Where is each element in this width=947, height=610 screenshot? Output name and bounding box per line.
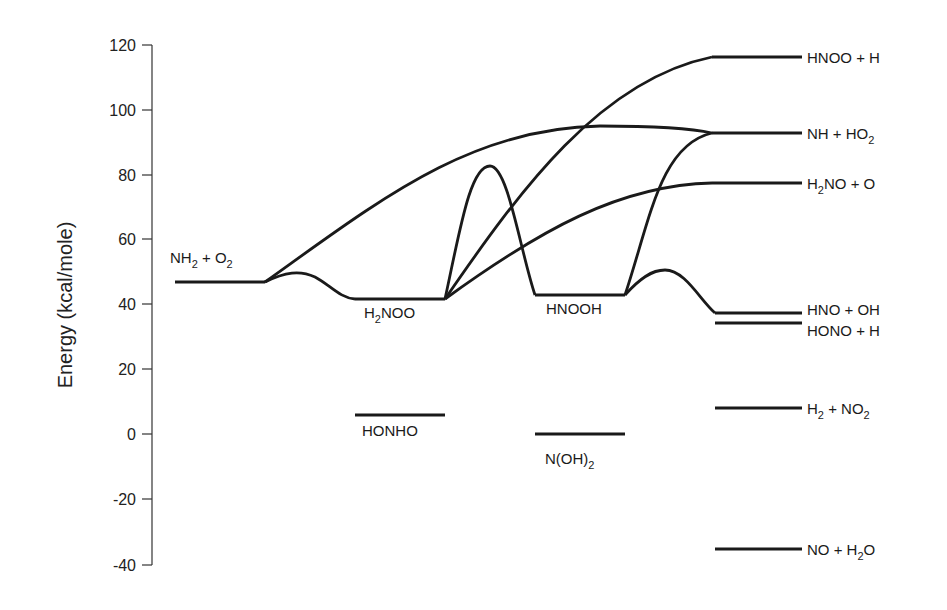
reaction-paths bbox=[265, 57, 715, 313]
label-no-h2o: NO + H2O bbox=[807, 541, 875, 562]
label-hono-h: HONO + H bbox=[807, 322, 880, 339]
label-nh2-o2: NH2 + O2 bbox=[170, 249, 233, 270]
label-hno-oh: HNO + OH bbox=[807, 301, 880, 318]
label-honho: HONHO bbox=[362, 422, 418, 439]
path-h2noo-to-hnoo-h bbox=[445, 57, 712, 299]
y-axis: 120 100 80 60 40 20 0 -20 -40 Energy (kc… bbox=[54, 37, 152, 574]
y-tick-label: 60 bbox=[118, 231, 136, 248]
label-h2noo: H2NOO bbox=[364, 304, 415, 325]
y-tick-label: 120 bbox=[109, 37, 136, 54]
path-nh2o2-to-nhho2 bbox=[265, 126, 712, 282]
path-hnooh-to-hnooh-barrier bbox=[625, 270, 715, 313]
y-tick-label: 100 bbox=[109, 102, 136, 119]
label-nh-ho2: NH + HO2 bbox=[807, 125, 874, 146]
energy-diagram: 120 100 80 60 40 20 0 -20 -40 Energy (kc… bbox=[0, 0, 947, 610]
y-tick-label: 40 bbox=[118, 296, 136, 313]
y-axis-label: Energy (kcal/mole) bbox=[54, 222, 76, 389]
label-noh2: N(OH)2 bbox=[545, 450, 594, 471]
label-hnooh: HNOOH bbox=[546, 300, 602, 317]
label-hnoo-h: HNOO + H bbox=[807, 49, 880, 66]
path-nh2o2-to-h2noo bbox=[265, 273, 355, 299]
label-h2no-o: H2NO + O bbox=[807, 175, 875, 196]
species-labels: NH2 + O2 H2NOO HONHO HNOOH N(OH)2 HNOO +… bbox=[170, 49, 880, 562]
label-h2-no2: H2 + NO2 bbox=[807, 400, 870, 421]
y-tick-label: 0 bbox=[127, 426, 136, 443]
y-tick-label: -20 bbox=[113, 491, 136, 508]
y-tick-label: -40 bbox=[113, 557, 136, 574]
y-tick-label: 80 bbox=[118, 167, 136, 184]
y-tick-label: 20 bbox=[118, 361, 136, 378]
